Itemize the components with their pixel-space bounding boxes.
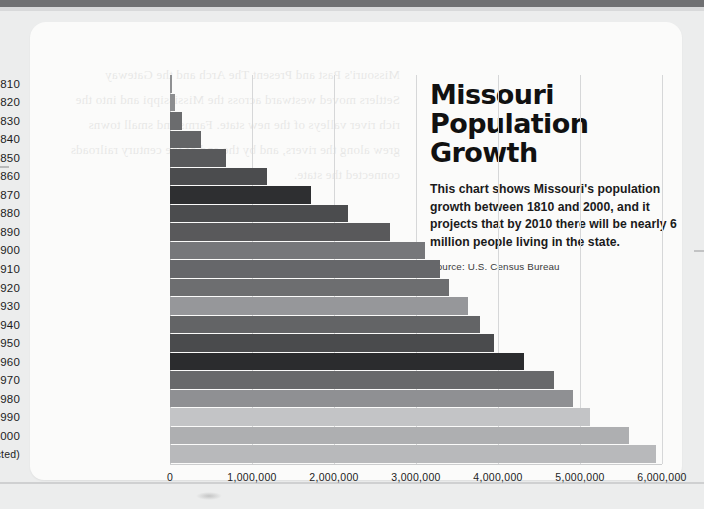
- bar-row: [170, 168, 662, 186]
- y-axis-label: 1980: [0, 390, 20, 408]
- x-axis-tick-label: 0: [167, 471, 173, 483]
- bar-row: [170, 390, 662, 408]
- bar-row: [170, 112, 662, 130]
- bar: [170, 445, 656, 463]
- bar: [170, 408, 590, 426]
- bar-row: [170, 427, 662, 445]
- bar: [170, 260, 440, 278]
- bar: [170, 131, 201, 149]
- bar: [170, 353, 524, 371]
- bar: [170, 205, 348, 223]
- y-axis-label: 1910: [0, 260, 20, 278]
- y-axis-label: 1940: [0, 316, 20, 334]
- scanned-page: Missouri's Past and Present The Arch and…: [0, 0, 704, 509]
- bar-row: [170, 353, 662, 371]
- gridline: [662, 75, 663, 464]
- bar-row: [170, 371, 662, 389]
- y-axis-label: 2010 (projected): [0, 445, 20, 463]
- x-axis-tick-label: 1,000,000: [227, 471, 276, 483]
- bar-row: [170, 131, 662, 149]
- bar: [170, 186, 311, 204]
- bar: [170, 94, 175, 112]
- y-axis-label: 1880: [0, 204, 20, 222]
- bar-row: [170, 186, 662, 204]
- y-axis-label: 2000: [0, 427, 20, 445]
- plot-area: 1810182018301840185018601870188018901900…: [170, 75, 662, 464]
- y-axis-label: 1960: [0, 353, 20, 371]
- bar: [170, 334, 494, 352]
- scan-top-edge-highlight: [0, 7, 704, 11]
- bar: [170, 371, 554, 389]
- bar-chart: 1810182018301840185018601870188018901900…: [170, 75, 662, 464]
- bar-row: [170, 408, 662, 426]
- y-axis-label: 1900: [0, 241, 20, 259]
- bar: [170, 297, 468, 315]
- x-axis-tick-label: 6,000,000: [637, 471, 686, 483]
- bar-row: [170, 316, 662, 334]
- bar: [170, 390, 573, 408]
- bar-row: [170, 75, 662, 93]
- y-axis-label: 1830: [0, 112, 20, 130]
- bar: [170, 75, 172, 93]
- y-axis-label: 1870: [0, 186, 20, 204]
- bar-row: [170, 205, 662, 223]
- y-axis-label: 1920: [0, 279, 20, 297]
- bar-row: [170, 334, 662, 352]
- bar-row: [170, 149, 662, 167]
- x-axis-line: [170, 464, 662, 465]
- bar-row: [170, 297, 662, 315]
- bar-row: [170, 242, 662, 260]
- x-axis-tick-label: 5,000,000: [555, 471, 604, 483]
- bar-row: [170, 223, 662, 241]
- y-axis-label: 1890: [0, 223, 20, 241]
- y-axis-label: 1810: [0, 75, 20, 93]
- chart-card: Missouri's Past and Present The Arch and…: [30, 22, 682, 480]
- bar-row: [170, 279, 662, 297]
- bar: [170, 223, 390, 241]
- x-axis-tick-label: 2,000,000: [309, 471, 358, 483]
- scan-top-edge: [0, 0, 704, 7]
- y-axis-label: 1990: [0, 408, 20, 426]
- x-axis-tick-label: 3,000,000: [391, 471, 440, 483]
- y-axis-label: 1970: [0, 371, 20, 389]
- y-axis-label: 1840: [0, 130, 20, 148]
- bar: [170, 279, 449, 297]
- y-axis-label: 1860: [0, 167, 20, 185]
- bar-row: [170, 260, 662, 278]
- bar: [170, 316, 480, 334]
- bar-row: [170, 445, 662, 463]
- x-axis-tick-label: 4,000,000: [473, 471, 522, 483]
- y-axis-label: 1820: [0, 93, 20, 111]
- y-axis-label: 1950: [0, 334, 20, 352]
- scan-smudge-artifact: [196, 492, 222, 500]
- bar: [170, 168, 267, 186]
- bar: [170, 112, 182, 130]
- y-axis-label: 1930: [0, 297, 20, 315]
- bar: [170, 427, 629, 445]
- y-axis-label: 1850: [0, 149, 20, 167]
- bar: [170, 149, 226, 167]
- bar: [170, 242, 425, 260]
- bar-row: [170, 94, 662, 112]
